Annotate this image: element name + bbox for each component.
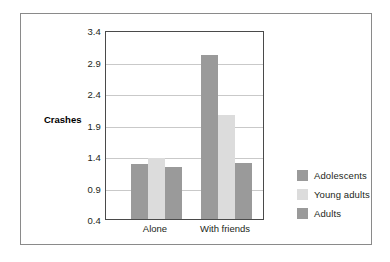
x-axis-tick-label: With friends [200, 223, 250, 234]
legend-item-label: Young adults [314, 189, 370, 200]
bar [131, 164, 148, 219]
y-axis-tick-label: 2.4 [67, 89, 101, 100]
gridline [106, 64, 263, 65]
legend-item[interactable]: Adults [297, 204, 371, 223]
legend-swatch-icon [297, 189, 308, 200]
bar [218, 115, 235, 219]
plot-area [105, 31, 264, 220]
x-axis-tick-label: Alone [143, 223, 167, 234]
legend-item-label: Adolescents [314, 170, 367, 181]
gridline [106, 158, 263, 159]
chart-legend: AdolescentsYoung adultsAdults [297, 166, 371, 223]
legend-item[interactable]: Adolescents [297, 166, 371, 185]
legend-swatch-icon [297, 208, 308, 219]
y-axis-tick-label: 1.9 [67, 120, 101, 131]
gridline [106, 95, 263, 96]
legend-item-label: Adults [314, 208, 341, 219]
y-axis-tick-labels: 0.40.91.41.92.42.93.4 [61, 31, 101, 220]
legend-item[interactable]: Young adults [297, 185, 371, 204]
y-axis-tick-label: 2.9 [67, 57, 101, 68]
legend-swatch-icon [297, 170, 308, 181]
y-axis-tick-label: 0.9 [67, 183, 101, 194]
chart-figure-frame: Crashes 0.40.91.41.92.42.93.4 AloneWith … [20, 13, 372, 245]
gridline [106, 127, 263, 128]
y-axis-tick-label: 3.4 [67, 26, 101, 37]
bar [165, 167, 182, 219]
bar [201, 55, 218, 219]
y-axis-tick-label: 1.4 [67, 152, 101, 163]
bar [148, 158, 165, 219]
bar [235, 163, 252, 219]
y-axis-tick-label: 0.4 [67, 215, 101, 226]
